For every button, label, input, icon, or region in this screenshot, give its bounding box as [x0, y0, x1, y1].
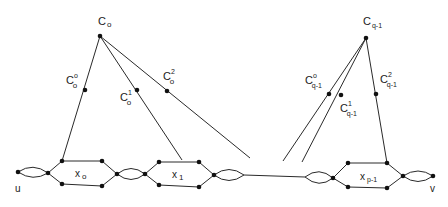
label-cq-1: C1q-1: [340, 100, 357, 118]
graph-diagram: Co Coo C1o C2o Cq-1 Coq-1 C1q-1 C2q-1 xo…: [0, 0, 448, 207]
label-cq-2: C2q-1: [380, 71, 397, 89]
lens-xp-top: [305, 172, 333, 178]
label-v: v: [430, 183, 435, 194]
label-cq-0: Coq-1: [305, 72, 322, 90]
label-c0-2: C2o: [163, 68, 175, 86]
cq-fan: [283, 38, 387, 163]
connector-line: [244, 175, 305, 177]
lens-u-bottom: [18, 172, 48, 177]
lens-x1-top: [214, 170, 244, 176]
label-u: u: [15, 183, 21, 194]
c0-fan: [62, 36, 250, 161]
label-c0: Co: [98, 15, 112, 29]
lens-x1-bottom: [214, 175, 244, 181]
lens-mid-top: [117, 169, 145, 175]
nodes: [16, 34, 436, 191]
label-xp: xp-1: [360, 171, 377, 184]
lens-v-bottom: [403, 176, 433, 182]
label-c0-0: Coo: [66, 72, 78, 90]
lens-mid-bottom: [117, 174, 145, 180]
lens-v-top: [403, 171, 433, 176]
lens-xp-bottom: [305, 177, 333, 183]
lens-u-top: [18, 167, 48, 173]
label-cq: Cq-1: [363, 15, 382, 30]
label-x0: xo: [75, 168, 87, 181]
label-x1: x1: [172, 169, 184, 182]
label-c0-1: C1o: [120, 89, 132, 107]
